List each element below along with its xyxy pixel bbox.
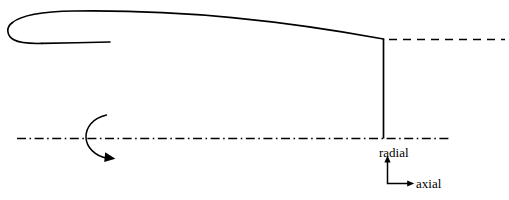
- axial-axis-label: axial: [416, 176, 442, 191]
- canvas-background: [0, 0, 509, 200]
- radial-axis-label: radial: [379, 145, 409, 160]
- diagram-canvas: radial axial: [0, 0, 509, 200]
- meridional-diagram: radial axial: [0, 0, 509, 200]
